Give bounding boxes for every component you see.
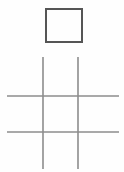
drawing-surface (0, 0, 124, 172)
drawing-canvas (0, 0, 124, 172)
canvas-background (0, 0, 124, 172)
